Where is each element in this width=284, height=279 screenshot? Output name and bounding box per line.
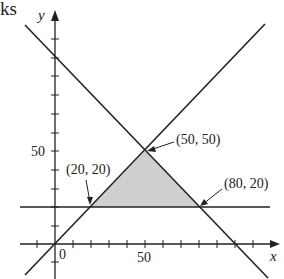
feasible-region-diagram: ks bbox=[0, 0, 284, 279]
x-axis-arrow-icon bbox=[270, 240, 280, 248]
y-axis-label: y bbox=[36, 7, 45, 23]
svg-text:(20, 20): (20, 20) bbox=[66, 162, 111, 178]
annotation-80-20: (80, 20) bbox=[200, 176, 269, 206]
svg-text:(80, 20): (80, 20) bbox=[224, 176, 269, 192]
arrow-head-icon bbox=[200, 199, 208, 206]
y-axis bbox=[51, 10, 59, 279]
y-tick-label-50: 50 bbox=[31, 144, 45, 159]
origin-label: 0 bbox=[59, 247, 66, 262]
x-axis-label: x bbox=[269, 248, 277, 264]
svg-text:(50, 50): (50, 50) bbox=[176, 132, 221, 148]
feasible-region bbox=[91, 151, 199, 207]
y-axis-arrow-icon bbox=[51, 10, 59, 21]
line-x-plus-y-equals-100 bbox=[25, 25, 268, 278]
x-tick-label-50: 50 bbox=[137, 250, 151, 265]
header-fragment: ks bbox=[0, 0, 17, 19]
